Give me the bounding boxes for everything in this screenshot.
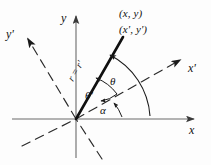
- alpha-label: α: [100, 105, 106, 116]
- theta-label: θ: [110, 76, 115, 87]
- y-prime-axis-label: y': [6, 28, 14, 40]
- figure-vector-graphics: [0, 0, 211, 165]
- alpha-arc: [114, 103, 122, 117]
- point-label-unprimed: (x, y): [119, 8, 142, 19]
- x-axis-label: x: [189, 124, 194, 136]
- theta-arc: [110, 55, 150, 116]
- coordinate-rotation-figure: y x x' y' (x, y) (x', y') r = r' θ θ' α: [0, 0, 211, 165]
- y-axis-label: y: [61, 12, 66, 24]
- point-label-primed: (x', y'): [119, 24, 147, 35]
- x-prime-axis-label: x': [188, 62, 196, 74]
- theta-prime-label: θ': [85, 90, 93, 101]
